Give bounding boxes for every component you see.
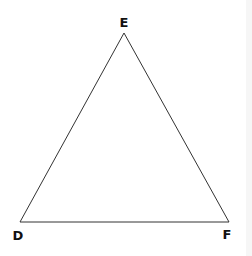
triangle-diagram: E D F: [0, 0, 252, 256]
vertex-label-d: D: [13, 228, 24, 243]
vertex-label-f: F: [223, 227, 232, 242]
triangle-def: [20, 33, 229, 222]
vertex-label-e: E: [120, 15, 129, 30]
diagram-canvas: E D F: [0, 0, 252, 256]
